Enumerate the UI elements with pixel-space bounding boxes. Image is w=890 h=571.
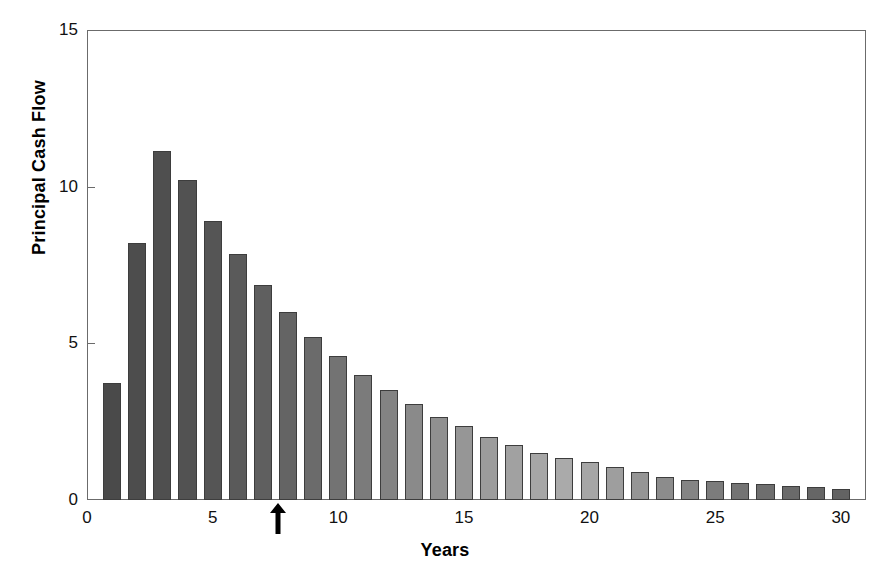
bar [178, 180, 196, 500]
bar [103, 383, 121, 501]
bar [505, 445, 523, 500]
bar [455, 426, 473, 500]
bar [656, 477, 674, 501]
chart-figure: Principal Cash Flow 051015 051015202530 … [0, 0, 890, 571]
bar [153, 151, 171, 500]
y-tick-label: 0 [38, 491, 78, 508]
x-axis-title: Years [0, 540, 890, 561]
bar [681, 480, 699, 500]
bar [782, 486, 800, 500]
bar [279, 312, 297, 500]
bar [128, 243, 146, 500]
x-tick-label: 10 [318, 508, 358, 528]
x-axis-tick-labels: 051015202530 [0, 508, 890, 534]
bar [807, 487, 825, 500]
bar [204, 221, 222, 500]
bar [405, 404, 423, 500]
x-tick-label: 0 [67, 508, 107, 528]
bar [254, 285, 272, 500]
x-tick-label: 30 [821, 508, 861, 528]
bar [430, 417, 448, 500]
x-tick-label: 5 [193, 508, 233, 528]
y-tick-label: 15 [38, 21, 78, 38]
bar [581, 462, 599, 500]
x-tick-label: 15 [444, 508, 484, 528]
bar [229, 254, 247, 500]
x-tick-label: 20 [570, 508, 610, 528]
bar [756, 484, 774, 500]
bar [555, 458, 573, 500]
bar [354, 375, 372, 500]
bar [329, 356, 347, 500]
bar [480, 437, 498, 500]
bar [832, 489, 850, 500]
y-tick-label: 10 [38, 178, 78, 195]
y-tick-label: 5 [38, 334, 78, 351]
x-tick-label: 25 [695, 508, 735, 528]
up-arrow-icon [269, 503, 287, 535]
bar-series [87, 30, 866, 500]
bar [606, 467, 624, 500]
bar [530, 453, 548, 500]
y-tick-mark [87, 343, 95, 344]
bar [706, 481, 724, 500]
bar [731, 483, 749, 500]
y-tick-mark [87, 187, 95, 188]
bar [304, 337, 322, 500]
y-axis-tick-labels: 051015 [0, 0, 78, 571]
bar [380, 390, 398, 500]
bar [631, 472, 649, 500]
